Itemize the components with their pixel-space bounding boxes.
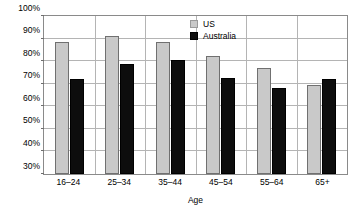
legend-label-us: US: [203, 20, 215, 29]
bar-us-25-34: [105, 36, 119, 174]
legend-swatch-australia-icon: [190, 32, 198, 40]
y-axis-tick-label: 80%: [23, 48, 40, 57]
x-axis-tick-label: 35–44: [145, 178, 196, 187]
x-axis-title: Age: [43, 196, 348, 205]
y-axis-tick-label: 40%: [23, 139, 40, 148]
bar-us-45-54: [206, 56, 220, 174]
x-axis-tick-label: 55–64: [246, 178, 297, 187]
x-axis-tick-labels: 16–2425–3435–4445–5455–6465+: [43, 178, 348, 187]
x-axis-tick-label: 16–24: [43, 178, 94, 187]
bar-australia-35-44: [171, 60, 185, 174]
bar-group: [246, 16, 297, 174]
bar-australia-45-54: [221, 78, 235, 174]
y-axis-tick-label: 100%: [18, 3, 40, 12]
bar-australia-55-64: [272, 88, 286, 174]
bar-group: [95, 16, 146, 174]
y-axis-tick-label: 60%: [23, 94, 40, 103]
x-axis-tick-label: 45–54: [195, 178, 246, 187]
legend: US Australia: [190, 20, 236, 43]
y-axis-tick-label: 50%: [23, 116, 40, 125]
bar-group: [145, 16, 196, 174]
legend-item-us: US: [190, 20, 236, 29]
legend-label-australia: Australia: [203, 32, 236, 41]
bar-australia-25-34: [120, 64, 134, 174]
bar-australia-16-24: [70, 79, 84, 174]
bar-australia-65+: [322, 79, 336, 174]
x-axis-tick-label: 25–34: [94, 178, 145, 187]
bar-us-16-24: [55, 42, 69, 174]
y-axis-tick-label: 70%: [23, 71, 40, 80]
y-axis-tick-label: 30%: [23, 161, 40, 170]
bar-us-35-44: [156, 42, 170, 174]
y-axis-tick-label: 90%: [23, 26, 40, 35]
bar-us-65+: [307, 85, 321, 174]
bar-chart: 30%40%50%60%70%80%90%100% 16–2425–3435–4…: [0, 0, 361, 216]
legend-swatch-us-icon: [190, 20, 198, 28]
x-axis-tick-label: 65+: [297, 178, 348, 187]
bar-us-55-64: [257, 68, 271, 174]
bar-group: [44, 16, 95, 174]
legend-item-australia: Australia: [190, 32, 236, 41]
bar-group: [297, 16, 348, 174]
